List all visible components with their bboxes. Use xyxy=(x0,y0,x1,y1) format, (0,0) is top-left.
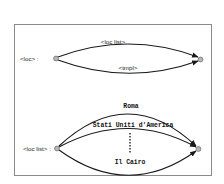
edge-label-stati-uniti: Stati Uniti d'America xyxy=(93,122,174,129)
end-node xyxy=(198,57,203,62)
end-node xyxy=(196,147,201,152)
start-node xyxy=(54,56,59,61)
loc-list-rule-label: <loc list> : xyxy=(23,145,51,152)
loc-rule-label: <loc> : xyxy=(20,55,39,62)
start-node xyxy=(55,146,60,151)
edge-label-roma: Roma xyxy=(123,103,139,110)
diagram-frame xyxy=(15,25,212,176)
grammar-diagram: <loc> : <loc list> <tmpl> <loc list> : R… xyxy=(0,0,224,184)
edge-label-loc-list: <loc list> xyxy=(101,38,126,45)
edge-label-il-cairo: Il Cairo xyxy=(115,159,146,166)
edge-label-tmpl: <tmpl> xyxy=(119,64,138,71)
